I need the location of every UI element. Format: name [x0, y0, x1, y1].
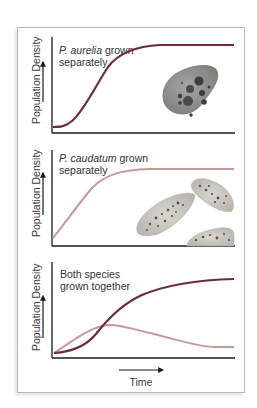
competition-figure: Population Density P. aurelia grown sepa…	[0, 0, 257, 408]
panel-caudatum: Population Density P. caudatum grown sep…	[30, 149, 235, 246]
panel-title-line2: separately	[59, 56, 108, 68]
panel-title-line2: separately	[59, 164, 108, 176]
panel-together: Population Density Both species grown to…	[30, 262, 235, 358]
y-axis-label: Population Density	[30, 149, 42, 237]
panel-aurelia: Population Density P. aurelia grown sepa…	[30, 36, 235, 133]
paramecium-aurelia-image	[163, 65, 219, 117]
caudatum-curve	[54, 325, 234, 353]
paramecium-caudatum-image	[137, 179, 234, 246]
panel-title: P. caudatum grown	[59, 152, 148, 164]
panel-title-line2: grown together	[60, 280, 131, 292]
y-axis-label: Population Density	[30, 263, 42, 351]
x-axis-label: Time	[130, 376, 153, 388]
panel-title: Both species	[60, 268, 120, 280]
y-axis-label: Population Density	[30, 36, 42, 124]
